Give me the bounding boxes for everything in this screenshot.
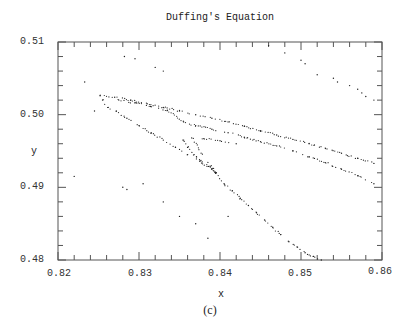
plot-area (0, 0, 415, 327)
data-points (74, 45, 375, 261)
